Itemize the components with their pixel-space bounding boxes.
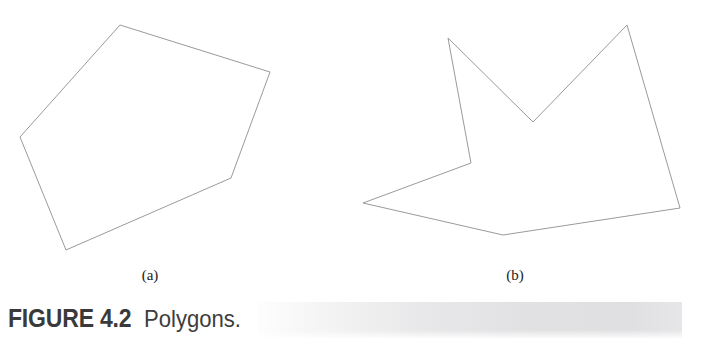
figure-drawing-area	[0, 0, 703, 262]
figure-container: (a) (b) FIGURE 4.2Polygons.	[0, 0, 703, 358]
polygons-svg	[0, 0, 703, 262]
polygon-b-shape	[363, 25, 680, 235]
figure-number: FIGURE 4.2	[8, 306, 131, 331]
panel-label-b: (b)	[480, 268, 550, 283]
panel-label-a: (a)	[115, 268, 185, 283]
figure-caption: FIGURE 4.2Polygons.	[8, 306, 250, 331]
scan-gradient-band	[258, 302, 682, 338]
polygon-a-shape	[20, 25, 270, 250]
figure-caption-text: Polygons.	[144, 307, 241, 331]
